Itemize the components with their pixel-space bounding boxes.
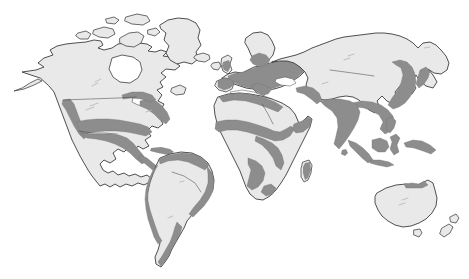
world-map-figure (0, 0, 469, 279)
world-map-graphic (0, 0, 469, 279)
